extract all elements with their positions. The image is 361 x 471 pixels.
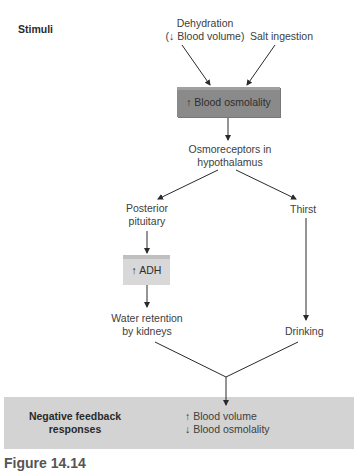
posterior-line1: Posterior — [117, 202, 177, 215]
negative-feedback-label: Negative feedback responses — [25, 410, 125, 436]
thirst-node: Thirst — [290, 203, 316, 216]
dehydration-line1: Dehydration — [150, 17, 260, 30]
drinking-node: Drinking — [285, 325, 324, 338]
water-line2: by kidneys — [107, 325, 187, 338]
stimuli-label: Stimuli — [18, 23, 53, 36]
feedback-responses: ↑ Blood volume ↓ Blood osmolality — [185, 410, 270, 436]
adh-box: ↑ ADH — [123, 255, 170, 285]
blood-osmolality-box: ↑ Blood osmolality — [177, 87, 280, 117]
dehydration-line2: (↓ Blood volume) — [150, 30, 260, 43]
osmoreceptors-line1: Osmoreceptors in — [180, 143, 280, 156]
posterior-line2: pituitary — [117, 215, 177, 228]
response-blood-osmolality: ↓ Blood osmolality — [185, 423, 270, 436]
water-retention-node: Water retention by kidneys — [107, 312, 187, 338]
water-line1: Water retention — [107, 312, 187, 325]
figure-caption: Figure 14.14 — [4, 455, 86, 471]
responses-label-line1: Negative feedback — [25, 410, 125, 423]
dehydration-stimulus: Dehydration (↓ Blood volume) — [150, 17, 260, 43]
responses-label-line2: responses — [25, 423, 125, 436]
response-blood-volume: ↑ Blood volume — [185, 410, 270, 423]
posterior-pituitary-node: Posterior pituitary — [117, 202, 177, 228]
osmoreceptors-line2: hypothalamus — [180, 156, 280, 169]
osmoreceptors-node: Osmoreceptors in hypothalamus — [180, 143, 280, 169]
salt-ingestion-stimulus: Salt ingestion — [250, 30, 313, 43]
